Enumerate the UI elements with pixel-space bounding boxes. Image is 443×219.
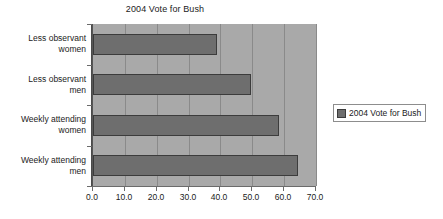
plot-area — [92, 24, 317, 186]
value-axis-tick — [315, 187, 316, 191]
category-label-line: Less observant — [0, 74, 86, 85]
category-label: Less observantmen — [0, 74, 86, 96]
bar — [93, 115, 279, 136]
value-axis-tick — [124, 187, 125, 191]
legend-swatch-icon — [337, 109, 346, 118]
category-label-line: Less observant — [0, 33, 86, 44]
bar-chart: 2004 Vote for Bush Less observantwomenLe… — [0, 0, 443, 219]
chart-title: 2004 Vote for Bush — [0, 4, 330, 14]
category-label: Weekly attendingwomen — [0, 114, 86, 136]
legend-label: 2004 Vote for Bush — [349, 108, 421, 118]
category-label: Less observantwomen — [0, 33, 86, 55]
category-label-line: women — [0, 44, 86, 55]
category-axis-tick — [87, 105, 92, 106]
category-label-line: women — [0, 125, 86, 136]
category-label-line: Weekly attending — [0, 155, 86, 166]
value-axis-tick — [251, 187, 252, 191]
value-axis-tick — [219, 187, 220, 191]
value-axis-tick — [188, 187, 189, 191]
category-label-line: men — [0, 166, 86, 177]
category-axis-tick — [87, 146, 92, 147]
value-axis-label: 70.0 — [295, 192, 335, 202]
bars-layer — [93, 24, 316, 186]
gridline — [316, 24, 317, 186]
value-axis-tick — [92, 187, 93, 191]
bar — [93, 34, 217, 55]
bar — [93, 155, 298, 176]
category-axis-tick — [87, 65, 92, 66]
category-label-line: Weekly attending — [0, 114, 86, 125]
value-axis-tick — [156, 187, 157, 191]
bar — [93, 74, 251, 95]
category-label-line: men — [0, 85, 86, 96]
category-axis-tick — [87, 24, 92, 25]
category-label: Weekly attendingmen — [0, 155, 86, 177]
chart-legend: 2004 Vote for Bush — [333, 104, 426, 122]
value-axis-tick — [283, 187, 284, 191]
